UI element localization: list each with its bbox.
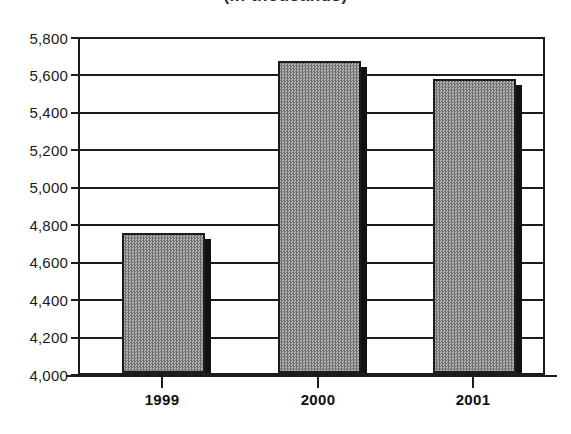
y-axis-tick: [71, 74, 78, 76]
y-axis-tick: [71, 262, 78, 264]
x-axis-label-2000: 2000: [273, 391, 363, 408]
y-axis-label: 4,000: [6, 367, 68, 384]
plot-area: [78, 37, 545, 375]
bar-chart: 5,800 5,600 5,400 5,200 5,000 4,800 4,60…: [0, 0, 571, 434]
y-axis-label: 4,800: [6, 217, 68, 234]
x-axis-label-2001: 2001: [428, 391, 518, 408]
x-axis-tick: [161, 377, 163, 388]
bar-group-1999[interactable]: [122, 233, 210, 373]
y-axis-label: 5,000: [6, 179, 68, 196]
y-axis-label: 4,200: [6, 329, 68, 346]
x-axis-tick: [472, 377, 474, 388]
y-axis-labels: 5,800 5,600 5,400 5,200 5,000 4,800 4,60…: [0, 0, 68, 434]
y-axis-label: 4,400: [6, 292, 68, 309]
y-axis-tick: [71, 37, 78, 39]
bar-group-2001[interactable]: [433, 79, 521, 373]
y-axis-tick: [71, 224, 78, 226]
y-axis-label: 4,600: [6, 254, 68, 271]
y-axis-tick: [71, 187, 78, 189]
x-axis-label-1999: 1999: [117, 391, 207, 408]
y-axis-label: 5,800: [6, 30, 68, 47]
y-axis-tick: [71, 337, 78, 339]
y-axis-label: 5,400: [6, 104, 68, 121]
bar-2001[interactable]: [433, 79, 516, 373]
bar-group-2000[interactable]: [278, 61, 366, 373]
y-axis-tick: [71, 149, 78, 151]
y-axis-label: 5,600: [6, 67, 68, 84]
x-axis-tick: [317, 377, 319, 388]
bar-1999[interactable]: [122, 233, 205, 373]
x-axis-line: [66, 375, 557, 377]
bar-2000[interactable]: [278, 61, 361, 373]
y-axis-label: 5,200: [6, 142, 68, 159]
y-axis-tick: [71, 299, 78, 301]
y-axis-tick: [71, 112, 78, 114]
